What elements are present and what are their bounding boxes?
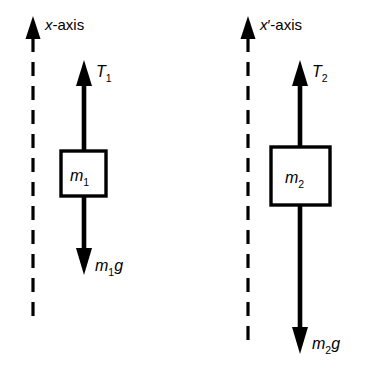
free-body-diagram-figure: x-axis T1 m1 m1g [0, 0, 367, 375]
x-axis-arrow [26, 16, 41, 316]
tension-subscript-t2: 2 [322, 72, 328, 84]
weight-arrow-m2g [292, 204, 308, 354]
tension-arrow-t1 [76, 60, 92, 152]
weight-gravity-symbol-m1g: g [114, 257, 123, 274]
weight-arrow-m1g [76, 195, 92, 275]
mass-box-m1 [61, 151, 106, 196]
free-body-diagram-m2: x′-axis T2 m2 m2g [241, 16, 341, 356]
weight-label-m2g: m2g [312, 335, 340, 356]
weight-arrowhead-m1g [76, 248, 92, 275]
mass-subscript-m2: 2 [298, 178, 304, 190]
mass-symbol-m2: m [285, 169, 298, 186]
tension-arrow-t2 [292, 60, 308, 148]
weight-mass-symbol-m1g: m [95, 257, 108, 274]
x-axis-label-suffix: -axis [53, 16, 85, 33]
tension-label-t2: T2 [312, 63, 328, 84]
tension-arrowhead-t1 [76, 60, 92, 86]
x-axis-label: x-axis [44, 16, 84, 33]
x-axis-arrowhead [26, 16, 41, 39]
x-prime-axis-label: x′-axis [259, 16, 302, 33]
tension-arrowhead-t2 [292, 60, 308, 86]
mass-box-m2 [271, 147, 330, 205]
mass-symbol-m1: m [70, 167, 83, 184]
x-prime-axis-arrowhead [241, 16, 256, 39]
weight-mass-symbol-m2g: m [312, 335, 325, 352]
free-body-diagram-m1: x-axis T1 m1 m1g [26, 16, 124, 316]
mass-subscript-m1: 1 [83, 176, 89, 188]
diagram-canvas: x-axis T1 m1 m1g [0, 0, 367, 375]
weight-label-m1g: m1g [95, 257, 123, 278]
weight-arrowhead-m2g [292, 327, 308, 354]
x-prime-axis-arrow [241, 16, 256, 346]
tension-subscript-t1: 1 [106, 72, 112, 84]
x-prime-axis-label-suffix: -axis [270, 16, 302, 33]
tension-label-t1: T1 [96, 63, 112, 84]
weight-gravity-symbol-m2g: g [331, 335, 340, 352]
